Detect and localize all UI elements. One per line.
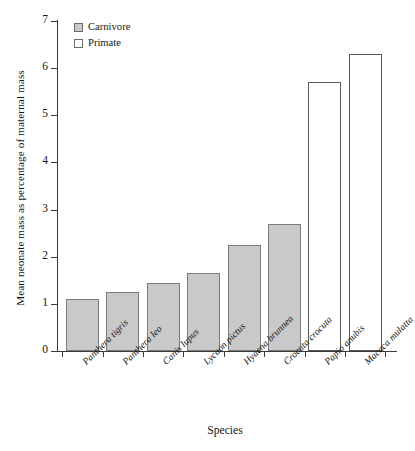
- bar-macaca-mulatta: [349, 54, 382, 351]
- x-axis-title: Species: [155, 424, 295, 437]
- legend-item-carnivore: Carnivore: [74, 20, 184, 35]
- legend-item-primate: Primate: [74, 36, 184, 51]
- bar-papio-anubis: [308, 82, 341, 351]
- legend: CarnivorePrimate: [74, 20, 184, 52]
- legend-swatch-icon: [74, 39, 83, 48]
- legend-swatch-icon: [74, 23, 83, 32]
- legend-label: Carnivore: [88, 22, 130, 33]
- legend-label: Primate: [88, 38, 121, 49]
